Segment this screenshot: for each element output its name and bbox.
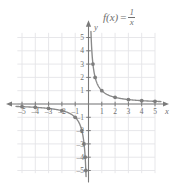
y-axis-label: y bbox=[93, 22, 98, 32]
data-point bbox=[93, 76, 97, 80]
data-point bbox=[153, 99, 157, 103]
function-name: f(x) bbox=[103, 11, 118, 23]
plot-element: 5 bbox=[153, 107, 157, 116]
plot-element: 4 bbox=[80, 46, 84, 55]
plot-element: 4 bbox=[140, 107, 144, 116]
data-point bbox=[113, 95, 117, 99]
data-point bbox=[140, 99, 144, 103]
grid-lines bbox=[17, 33, 155, 173]
plot-element: 3 bbox=[80, 60, 84, 69]
plot-element: –2 bbox=[76, 126, 85, 135]
fraction-denominator: x bbox=[128, 18, 135, 27]
plot-element: –5 bbox=[17, 107, 26, 116]
plot-element: –3 bbox=[44, 107, 53, 116]
data-point bbox=[100, 89, 104, 93]
plot-element: 1 bbox=[100, 107, 104, 116]
data-point bbox=[126, 98, 130, 102]
x-axis-label: x bbox=[164, 106, 169, 116]
plot-element: 1 bbox=[80, 86, 84, 95]
plot-element: 5 bbox=[80, 33, 84, 42]
plot-element: –1 bbox=[76, 113, 85, 122]
function-equation-label: f(x)=1x bbox=[103, 9, 135, 29]
equals-sign: = bbox=[118, 11, 128, 23]
graph-canvas: –5–4–3–2–11234554321–1–2–3–4–5 xy bbox=[0, 0, 174, 190]
plot-element: 3 bbox=[127, 107, 131, 116]
data-point bbox=[91, 62, 95, 66]
graph-figure: –5–4–3–2–11234554321–1–2–3–4–5 xy f(x)=1… bbox=[0, 0, 174, 190]
plot-element: –4 bbox=[31, 107, 40, 116]
plot-element: 2 bbox=[80, 73, 84, 82]
plot-element: –2 bbox=[57, 107, 66, 116]
plot-element bbox=[86, 20, 91, 27]
plot-element: –4 bbox=[76, 153, 85, 162]
plot-element: 2 bbox=[113, 107, 117, 116]
plot-element: –3 bbox=[76, 140, 85, 149]
fraction-one-over-x: 1x bbox=[128, 8, 135, 28]
plot-element bbox=[6, 101, 12, 106]
data-point bbox=[84, 169, 88, 173]
plot-element: –5 bbox=[76, 166, 85, 175]
